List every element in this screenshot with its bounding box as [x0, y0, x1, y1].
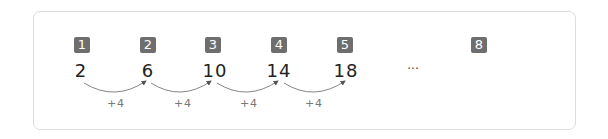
- arrow-icon: [84, 81, 146, 92]
- step-label: +4: [240, 97, 258, 110]
- step-arrows: [0, 0, 608, 139]
- arrow-icon: [217, 81, 278, 92]
- step-label: +4: [305, 97, 323, 110]
- step-label: +4: [107, 97, 125, 110]
- arrow-icon: [151, 81, 211, 92]
- step-label: +4: [174, 97, 192, 110]
- arrow-icon: [284, 81, 345, 92]
